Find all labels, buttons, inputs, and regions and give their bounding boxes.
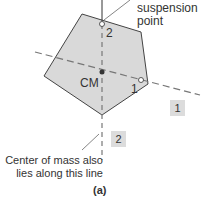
- point-2-label: 2: [106, 27, 113, 40]
- suspension-label-line2: point: [137, 15, 198, 28]
- caption: Center of mass also lies along this line: [0, 154, 103, 180]
- cm-label: CM: [80, 77, 99, 90]
- pointer-suspension: [104, 0, 130, 20]
- caption-line2: lies along this line: [0, 167, 103, 180]
- figure-label: (a): [93, 184, 106, 197]
- line-1-tag: 1: [170, 100, 185, 116]
- line-2-tag: 2: [111, 131, 126, 147]
- point-1-label: 1: [131, 83, 138, 96]
- pointer-caption: [82, 134, 99, 150]
- suspension-point-2: [100, 22, 105, 27]
- irregular-plate: [44, 14, 148, 115]
- caption-line1: Center of mass also: [0, 154, 103, 167]
- suspension-point-1: [139, 78, 144, 83]
- center-of-mass-dot: [100, 70, 105, 75]
- suspension-label: suspension point: [137, 2, 198, 28]
